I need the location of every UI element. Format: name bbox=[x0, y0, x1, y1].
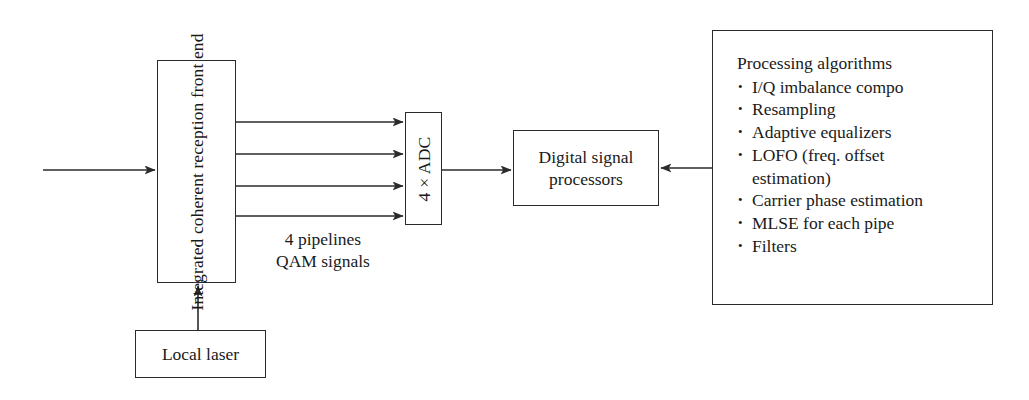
list-item: LOFO (freq. offset estimation) bbox=[737, 144, 992, 190]
pipelines-annotation: 4 pipelines QAM signals bbox=[248, 228, 398, 273]
list-item: Carrier phase estimation bbox=[737, 189, 992, 212]
processing-algorithms-list: I/Q imbalance compo Resampling Adaptive … bbox=[737, 76, 992, 258]
list-item: I/Q imbalance compo bbox=[737, 76, 992, 99]
list-item: Filters bbox=[737, 235, 992, 258]
dsp-block-label: Digital signal processors bbox=[539, 146, 634, 191]
frontend-block[interactable]: Integrated coherent reception front end bbox=[157, 60, 236, 283]
diagram-canvas: Integrated coherent reception front end … bbox=[0, 0, 1029, 400]
local-laser-block-label: Local laser bbox=[162, 344, 239, 365]
adc-block[interactable]: 4 × ADC bbox=[405, 112, 442, 225]
list-item: MLSE for each pipe bbox=[737, 212, 992, 235]
list-item: Resampling bbox=[737, 98, 992, 121]
list-item: Adaptive equalizers bbox=[737, 121, 992, 144]
frontend-block-label: Integrated coherent reception front end bbox=[185, 33, 208, 310]
adc-block-label: 4 × ADC bbox=[413, 136, 434, 201]
local-laser-block[interactable]: Local laser bbox=[135, 330, 266, 378]
dsp-block[interactable]: Digital signal processors bbox=[513, 130, 659, 206]
processing-algorithms-block[interactable]: Processing algorithms I/Q imbalance comp… bbox=[712, 30, 993, 305]
processing-algorithms-title: Processing algorithms bbox=[737, 55, 992, 73]
